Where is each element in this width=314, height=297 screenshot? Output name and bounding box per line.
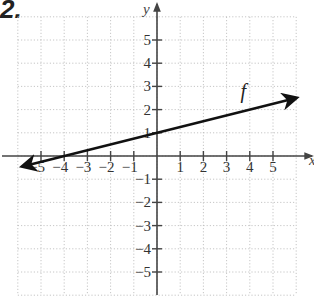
x-tick-label: 3 [223, 159, 231, 175]
x-axis-label: x [308, 152, 314, 168]
function-label: f [241, 80, 249, 103]
y-axis-label: y [141, 1, 150, 17]
y-tick-label: −3 [135, 218, 151, 234]
x-tick-label: 5 [269, 159, 277, 175]
y-tick-label: 5 [144, 32, 152, 48]
y-tick-label: −5 [135, 264, 151, 280]
y-tick-label: −2 [135, 194, 151, 210]
x-tick-label: 2 [200, 159, 208, 175]
x-tick-label: −2 [99, 159, 115, 175]
y-tick-label: 1 [144, 125, 152, 141]
x-tick-label: 1 [176, 159, 184, 175]
y-tick-label: 2 [144, 102, 152, 118]
coordinate-graph: yx −5−4−3−2−11234554321−1−2−3−4−5 f [0, 0, 314, 297]
x-tick-label: −3 [75, 159, 91, 175]
x-tick-label: 4 [246, 159, 254, 175]
y-tick-label: 3 [144, 78, 152, 94]
axes: yx [2, 1, 314, 295]
y-tick-label: −1 [135, 171, 151, 187]
y-tick-label: −4 [135, 241, 151, 257]
y-tick-label: 4 [144, 55, 152, 71]
x-tick-label: −4 [52, 159, 68, 175]
